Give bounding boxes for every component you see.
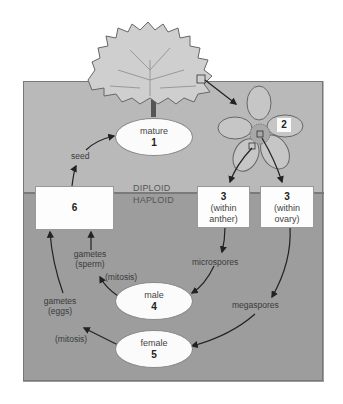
gametes-sperm-line1: gametes <box>66 249 114 259</box>
gametes-sperm-line2: (sperm) <box>66 259 114 269</box>
diploid-label: DIPLOID <box>133 183 170 193</box>
mitosis-female-label: (mitosis) <box>55 334 87 344</box>
seed-label: seed <box>71 151 89 161</box>
stage-ovary-sub: (within ovary) <box>261 203 313 225</box>
stage-male-number: 4 <box>116 301 192 313</box>
life-cycle-diagram: DIPLOID HAPLOID mature 1 2 6 3 (within a… <box>0 0 343 404</box>
stage-mature-name: mature <box>116 126 192 137</box>
stage-6-number: 6 <box>36 202 113 214</box>
gametes-sperm-label: gametes (sperm) <box>66 249 114 269</box>
tree-illustration <box>88 22 212 117</box>
stage-6-box: 6 <box>35 186 114 230</box>
microspores-label: microspores <box>192 257 238 267</box>
stage-female-oval: female 5 <box>115 330 193 368</box>
stage-female-number: 5 <box>116 349 192 361</box>
haploid-label: HAPLOID <box>133 195 174 205</box>
mitosis-male-label: (mitosis) <box>105 272 137 282</box>
gametes-eggs-label: gametes (eggs) <box>40 296 80 316</box>
megaspores-label: megaspores <box>232 300 279 310</box>
stage-mature-number: 1 <box>116 137 192 149</box>
gametes-eggs-line2: (eggs) <box>40 306 80 316</box>
stage-anther-number: 3 <box>198 191 249 203</box>
stage-ovary-box: 3 (within ovary) <box>260 186 314 228</box>
stage-anther-box: 3 (within anther) <box>197 186 250 228</box>
stage-mature-oval: mature 1 <box>115 118 193 156</box>
stage-flower-number: 2 <box>277 118 291 132</box>
stage-male-name: male <box>116 290 192 301</box>
gametes-eggs-line1: gametes <box>40 296 80 306</box>
stage-anther-sub: (within anther) <box>198 203 249 225</box>
stage-female-name: female <box>116 338 192 349</box>
stage-ovary-number: 3 <box>261 191 313 203</box>
stage-male-oval: male 4 <box>115 282 193 320</box>
